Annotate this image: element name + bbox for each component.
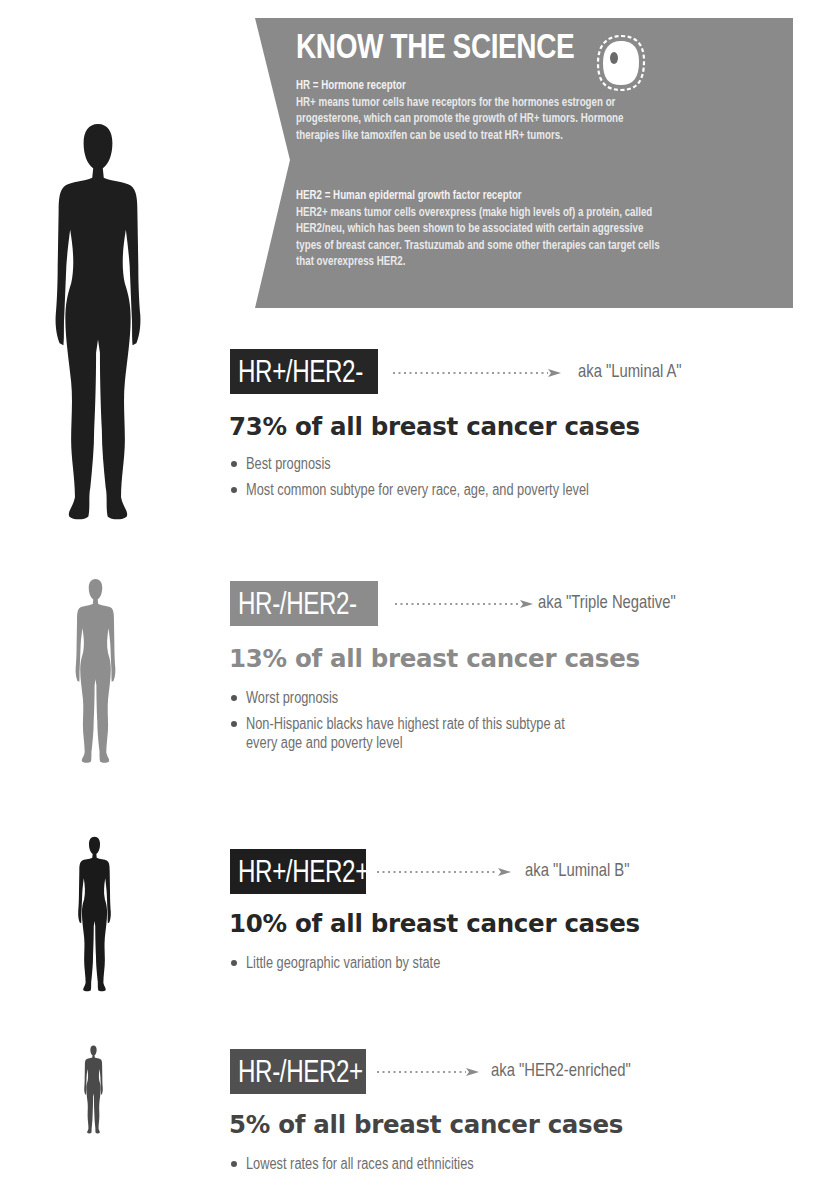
subtype-label-text: HR-/HER2- — [238, 586, 357, 622]
subtype-percent: 5% of all breast cancer cases — [229, 1110, 623, 1139]
her2-desc-line: HER2/neu, which has been shown to be ass… — [296, 220, 768, 237]
dotted-arrow-icon — [395, 599, 535, 609]
hr-desc-line: HR+ means tumor cells have receptors for… — [296, 94, 768, 111]
subtype-label-hr-pos-her2-neg: HR+/HER2- — [230, 349, 378, 394]
subtype-label-hr-pos-her2-pos: HR+/HER2+ — [230, 849, 366, 894]
her2-definition: HER2 = Human epidermal growth factor rec… — [296, 187, 768, 270]
bullet-item-continuation: every age and poverty level — [229, 733, 644, 752]
subtype-label-text: HR+/HER2+ — [238, 854, 369, 890]
bullet-item: Most common subtype for every race, age,… — [229, 480, 675, 499]
bullet-item: Best prognosis — [229, 454, 675, 473]
subtype-aka: aka "Luminal B" — [525, 859, 629, 881]
subtype-aka: aka "Luminal A" — [578, 360, 682, 382]
her2-desc-line: types of breast cancer. Trastuzumab and … — [296, 237, 768, 254]
dotted-arrow-icon — [377, 867, 513, 877]
subtype-percent: 13% of all breast cancer cases — [229, 644, 640, 673]
subtype-label-hr-neg-her2-pos: HR-/HER2+ — [230, 1049, 366, 1094]
subtype-label-text: HR+/HER2- — [238, 354, 363, 390]
subtype-bullets: Lowest rates for all races and ethniciti… — [229, 1154, 531, 1180]
female-silhouette-icon-large — [50, 122, 146, 526]
banner-title: KNOW THE SCIENCE — [296, 26, 574, 66]
hr-desc-line: progesterone, which can promote the grow… — [296, 110, 768, 127]
subtype-bullets: Worst prognosis Non-Hispanic blacks have… — [229, 688, 644, 759]
subtype-percent: 10% of all breast cancer cases — [229, 909, 640, 938]
her2-desc-line: HER2+ means tumor cells overexpress (mak… — [296, 204, 768, 221]
subtype-aka: aka "Triple Negative" — [538, 591, 676, 613]
female-silhouette-icon-small — [76, 836, 113, 994]
subtype-label-hr-neg-her2-neg: HR-/HER2- — [230, 581, 378, 626]
hr-definition: HR = Hormone receptor HR+ means tumor ce… — [296, 77, 768, 143]
her2-term: HER2 = Human epidermal growth factor rec… — [296, 187, 768, 204]
dotted-arrow-icon — [393, 368, 563, 378]
subtype-aka: aka "HER2-enriched" — [491, 1059, 631, 1081]
hr-desc-line: therapies like tamoxifen can be used to … — [296, 127, 768, 144]
female-silhouette-icon-tiny — [83, 1045, 104, 1135]
bullet-item: Little geographic variation by state — [229, 953, 489, 972]
dotted-arrow-icon — [377, 1067, 481, 1077]
bullet-item: Lowest rates for all races and ethniciti… — [229, 1154, 531, 1173]
subtype-label-text: HR-/HER2+ — [238, 1054, 363, 1090]
hr-term: HR = Hormone receptor — [296, 77, 768, 94]
female-silhouette-icon-medium — [73, 578, 118, 766]
subtype-percent: 73% of all breast cancer cases — [229, 412, 640, 441]
bullet-item: Non-Hispanic blacks have highest rate of… — [229, 714, 644, 733]
her2-desc-line: that overexpress HER2. — [296, 253, 768, 270]
subtype-bullets: Little geographic variation by state — [229, 953, 489, 979]
bullet-item: Worst prognosis — [229, 688, 644, 707]
subtype-bullets: Best prognosis Most common subtype for e… — [229, 454, 675, 506]
